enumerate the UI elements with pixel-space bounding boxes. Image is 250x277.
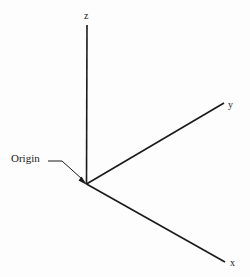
coordinate-axes-diagram: z y x Origin xyxy=(0,0,250,277)
x-axis-label: x xyxy=(230,258,235,268)
origin-annotation-label: Origin xyxy=(11,152,40,165)
x-axis-line xyxy=(87,184,226,262)
z-axis-line xyxy=(87,25,88,184)
y-axis-line xyxy=(87,103,225,184)
origin-leader-line xyxy=(48,161,82,179)
z-axis-label: z xyxy=(84,11,88,21)
y-axis-label: y xyxy=(228,100,233,110)
axes-drawing xyxy=(0,0,250,277)
